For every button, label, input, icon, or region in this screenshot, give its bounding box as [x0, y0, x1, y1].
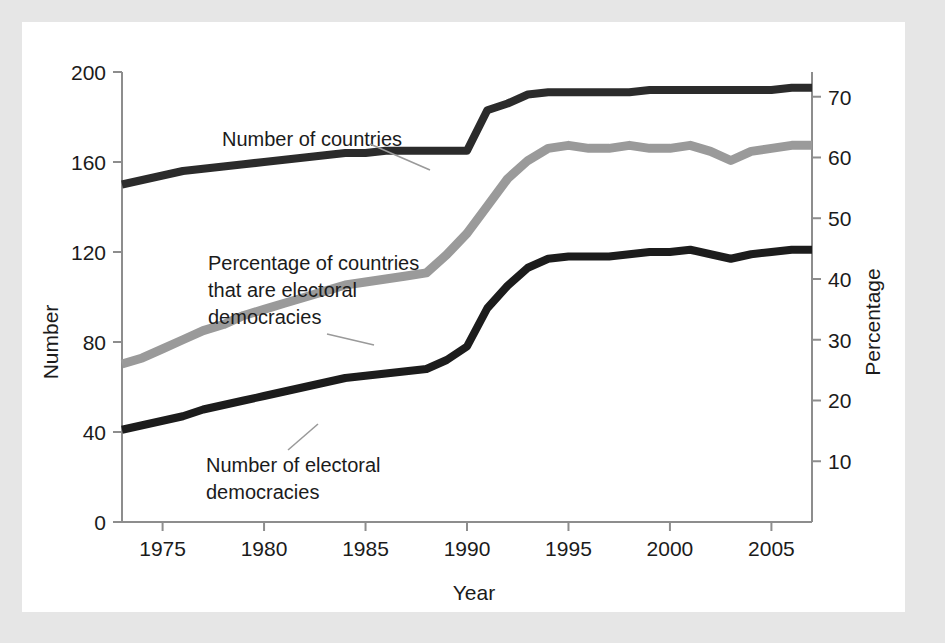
x-tick-label: 1990 — [444, 537, 491, 560]
right-tick-label: 10 — [828, 450, 851, 473]
right-tick-label: 70 — [828, 86, 851, 109]
x-tick-label: 2000 — [647, 537, 694, 560]
x-tick-label: 1985 — [342, 537, 389, 560]
x-tick-label: 1995 — [545, 537, 592, 560]
left-tick-label: 0 — [94, 511, 106, 534]
x-axis-title: Year — [453, 581, 495, 604]
annotation-leader-line — [288, 424, 318, 450]
right-tick-label: 30 — [828, 329, 851, 352]
annotation-label: Percentage of countries — [208, 252, 419, 274]
annotation-leader-line — [327, 334, 374, 345]
annotation-3: Number of electoraldemocracies — [206, 424, 381, 503]
left-tick-label: 200 — [71, 61, 106, 84]
annotation-label: democracies — [206, 481, 319, 503]
left-tick-label: 80 — [83, 331, 106, 354]
x-tick-label: 2005 — [748, 537, 795, 560]
line-chart: 04080120160200 10203040506070 1975198019… — [22, 22, 905, 612]
x-axis-ticks: 1975198019851990199520002005 — [139, 522, 795, 560]
annotation-label: democracies — [208, 306, 321, 328]
annotation-2: Percentage of countriesthat are electora… — [208, 252, 419, 345]
y2-axis-title: Percentage — [861, 268, 884, 375]
annotations-group: Number of countriesPercentage of countri… — [206, 128, 430, 503]
chart-card: 04080120160200 10203040506070 1975198019… — [22, 22, 905, 612]
left-tick-label: 40 — [83, 421, 106, 444]
right-tick-label: 40 — [828, 268, 851, 291]
x-tick-label: 1980 — [241, 537, 288, 560]
figure-page: 04080120160200 10203040506070 1975198019… — [0, 0, 945, 643]
annotation-label: Number of electoral — [206, 454, 381, 476]
x-tick-label: 1975 — [139, 537, 186, 560]
left-tick-label: 160 — [71, 151, 106, 174]
right-tick-label: 60 — [828, 146, 851, 169]
series-line-3: Number of electoral democracies — [122, 250, 812, 430]
left-tick-label: 120 — [71, 241, 106, 264]
right-tick-label: 50 — [828, 207, 851, 230]
annotation-label: that are electoral — [208, 279, 357, 301]
right-axis-ticks: 10203040506070 — [812, 86, 851, 474]
y-axis-title: Number — [39, 305, 62, 380]
right-tick-label: 20 — [828, 389, 851, 412]
left-axis-ticks: 04080120160200 — [71, 61, 122, 534]
